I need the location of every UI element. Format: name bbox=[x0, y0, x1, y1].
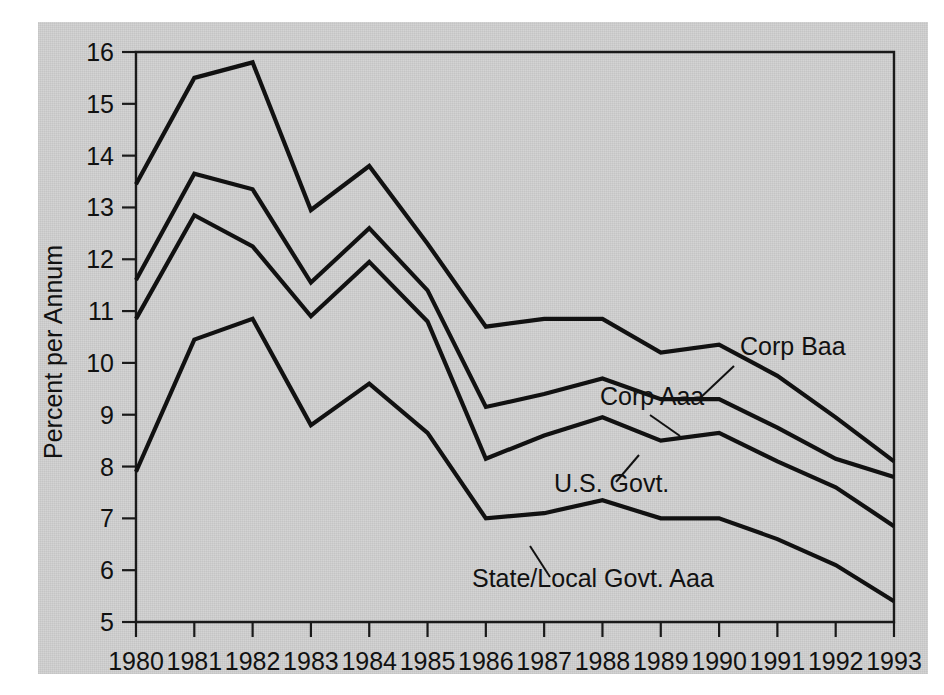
series-annotation-label: Corp Baa bbox=[740, 332, 846, 360]
x-axis-tick-label: 1985 bbox=[400, 647, 456, 674]
series-line-u-s-govt bbox=[136, 215, 894, 526]
y-axis-tick-label: 15 bbox=[86, 90, 114, 118]
svg-text:Percent per Annum: Percent per Annum bbox=[39, 245, 67, 459]
series-annotation-leader bbox=[650, 415, 680, 436]
series-line-corp-aaa bbox=[136, 174, 894, 477]
x-axis-ticks bbox=[136, 622, 894, 637]
series-annotation-label: Corp Aaa bbox=[600, 382, 704, 410]
y-axis-tick-label: 14 bbox=[86, 142, 114, 170]
y-axis-tick-label: 13 bbox=[86, 193, 114, 221]
chart-plate: 5678910111213141516 19801981198219831984… bbox=[38, 22, 928, 674]
line-chart: 5678910111213141516 19801981198219831984… bbox=[38, 22, 928, 674]
x-axis-tick-label: 1991 bbox=[750, 647, 806, 674]
series-annotation-label: U.S. Govt. bbox=[554, 469, 669, 497]
x-axis-tick-label: 1993 bbox=[866, 647, 922, 674]
y-axis-tick-label: 10 bbox=[86, 349, 114, 377]
y-axis-tick-label: 7 bbox=[100, 504, 114, 532]
figure-canvas: 5678910111213141516 19801981198219831984… bbox=[0, 0, 944, 695]
x-axis-tick-labels: 1980198119821983198419851986198719881989… bbox=[108, 647, 922, 674]
x-axis-tick-label: 1989 bbox=[633, 647, 689, 674]
x-axis-tick-label: 1984 bbox=[341, 647, 397, 674]
x-axis-tick-label: 1988 bbox=[575, 647, 631, 674]
x-axis-tick-label: 1990 bbox=[691, 647, 747, 674]
y-axis-tick-label: 5 bbox=[100, 608, 114, 636]
series-line-state-local-govt-aaa bbox=[136, 319, 894, 601]
y-axis-tick-label: 16 bbox=[86, 38, 114, 66]
y-axis-tick-label: 12 bbox=[86, 245, 114, 273]
x-axis-tick-label: 1980 bbox=[108, 647, 164, 674]
y-axis-tick-labels: 5678910111213141516 bbox=[86, 38, 114, 636]
y-axis-tick-label: 11 bbox=[88, 297, 114, 325]
y-axis-tick-label: 9 bbox=[100, 401, 114, 429]
x-axis-tick-label: 1992 bbox=[808, 647, 864, 674]
x-axis-tick-label: 1982 bbox=[225, 647, 281, 674]
x-axis-tick-label: 1981 bbox=[166, 647, 222, 674]
series-annotation-label: State/Local Govt. Aaa bbox=[472, 564, 714, 592]
x-axis-tick-label: 1986 bbox=[458, 647, 514, 674]
y-axis-tick-label: 6 bbox=[100, 556, 114, 584]
x-axis-tick-label: 1983 bbox=[283, 647, 339, 674]
x-axis-tick-label: 1987 bbox=[516, 647, 572, 674]
series-annotations: Corp BaaCorp AaaU.S. Govt.State/Local Go… bbox=[472, 332, 846, 592]
y-axis-tick-label: 8 bbox=[100, 453, 114, 481]
y-axis-title: Percent per Annum bbox=[39, 245, 67, 459]
y-axis-ticks bbox=[122, 52, 136, 622]
